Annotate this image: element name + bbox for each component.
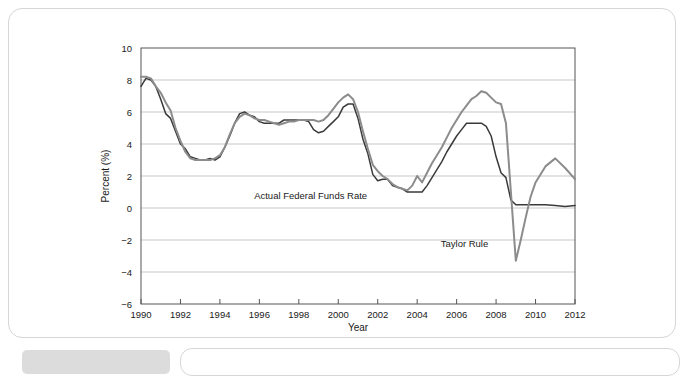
x-tick-label: 1992 [170,309,191,320]
figure-card: 1086420−2−4−6 19901992199419961998200020… [8,8,676,338]
x-tick-label: 1998 [288,309,309,320]
x-tick-label: 2002 [367,309,388,320]
x-tick-label: 2008 [486,309,507,320]
x-axis-ticks [141,299,575,304]
y-tick-label: 6 [127,107,132,118]
y-tick-label: −2 [121,235,132,246]
series-annotation: Actual Federal Funds Rate [254,190,367,201]
y-tick-label: 4 [127,139,132,150]
series-annotation: Taylor Rule [441,238,489,249]
x-tick-label: 2006 [446,309,467,320]
x-tick-label: 1996 [249,309,270,320]
chart-container: 1086420−2−4−6 19901992199419961998200020… [9,9,677,339]
x-tick-label: 1994 [209,309,230,320]
y-tick-label: −4 [121,267,132,278]
x-axis-title: Year [348,322,369,333]
x-tick-label: 2000 [328,309,349,320]
bottom-white-card [180,348,680,376]
x-tick-label: 2010 [525,309,546,320]
y-tick-label: 0 [127,203,132,214]
data-series-group [141,77,575,261]
x-axis-tick-labels: 1990199219941996199820002002200420062008… [130,309,585,320]
y-axis-tick-labels: 1086420−2−4−6 [121,43,132,310]
series-line-taylor-rule [141,77,575,261]
x-tick-label: 1990 [130,309,151,320]
bottom-gray-bar [22,350,170,374]
y-tick-label: 8 [127,75,132,86]
line-chart: 1086420−2−4−6 19901992199419961998200020… [9,9,677,339]
y-axis-title: Percent (%) [100,150,111,203]
y-tick-label: −6 [121,299,132,310]
x-tick-label: 2004 [407,309,428,320]
x-tick-label: 2012 [564,309,585,320]
y-tick-label: 10 [121,43,132,54]
y-tick-label: 2 [127,171,132,182]
